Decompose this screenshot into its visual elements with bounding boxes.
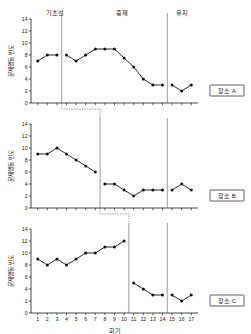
y-tick-label: 6: [25, 64, 28, 70]
data-point: [171, 84, 174, 87]
data-point: [113, 183, 116, 186]
x-tick-label: 7: [94, 316, 97, 322]
x-tick-label: 10: [121, 316, 127, 322]
legend-label-3: 장소 C: [218, 297, 237, 304]
legend-label-2: 장소 B: [218, 192, 236, 199]
x-tick-label: 11: [131, 316, 136, 322]
x-tick-label: 14: [160, 316, 166, 322]
data-point: [161, 84, 164, 87]
series-line-중재: [67, 49, 163, 85]
x-tick-label: 1: [36, 316, 39, 322]
x-tick-label: 6: [84, 316, 87, 322]
data-point: [113, 48, 116, 51]
data-point: [36, 153, 39, 156]
y-tick-label: 10: [22, 145, 28, 151]
data-point: [84, 165, 87, 168]
y-tick-label: 4: [25, 181, 28, 187]
x-axis-title: 회기: [109, 327, 121, 334]
phase-stagger-connector: [100, 208, 129, 223]
y-tick-label: 12: [22, 238, 28, 244]
y-tick-label: 8: [25, 52, 28, 58]
y-tick-label: 8: [25, 262, 28, 268]
data-point: [132, 195, 135, 198]
data-point: [123, 189, 126, 192]
y-tick-label: 4: [25, 76, 28, 82]
data-point: [180, 183, 183, 186]
y-tick-label: 2: [25, 193, 28, 199]
x-tick-label: 12: [140, 316, 146, 322]
panel-2: 02468101214문제행동 빈도장소 B: [7, 118, 244, 223]
data-point: [94, 48, 97, 51]
data-point: [142, 189, 145, 192]
chart-canvas: 기초선중재유지02468101214문제행동 빈도장소 A02468101214…: [0, 0, 251, 334]
data-point: [190, 294, 193, 297]
x-tick-label: 15: [169, 316, 175, 322]
data-point: [151, 84, 154, 87]
y-tick-label: 10: [22, 40, 28, 46]
data-point: [190, 189, 193, 192]
data-point: [55, 258, 58, 261]
data-point: [103, 183, 106, 186]
data-point: [84, 54, 87, 57]
phase-stagger-connector: [62, 103, 100, 118]
data-point: [75, 60, 78, 63]
data-point: [36, 258, 39, 261]
y-axis-title: 문제행동 빈도: [7, 254, 15, 287]
y-tick-label: 0: [25, 310, 28, 316]
data-point: [65, 153, 68, 156]
data-point: [123, 240, 126, 243]
x-tick-label: 4: [65, 316, 68, 322]
data-point: [171, 294, 174, 297]
data-point: [161, 294, 164, 297]
y-tick-label: 6: [25, 274, 28, 280]
x-tick-label: 8: [103, 316, 106, 322]
data-point: [190, 84, 193, 87]
x-tick-label: 13: [150, 316, 156, 322]
data-point: [46, 264, 49, 267]
data-point: [142, 288, 145, 291]
data-point: [46, 54, 49, 57]
y-tick-label: 12: [22, 28, 28, 34]
data-point: [161, 189, 164, 192]
x-tick-label: 16: [179, 316, 185, 322]
multiple-baseline-chart: 기초선중재유지02468101214문제행동 빈도장소 A02468101214…: [0, 0, 251, 334]
panel-3: 024681012141234567891011121314151617문제행동…: [7, 223, 244, 322]
y-tick-label: 8: [25, 157, 28, 163]
data-point: [46, 153, 49, 156]
data-point: [171, 189, 174, 192]
data-point: [65, 54, 68, 57]
data-point: [180, 90, 183, 93]
data-point: [84, 252, 87, 255]
x-tick-label: 17: [188, 316, 194, 322]
data-point: [65, 264, 68, 267]
data-point: [180, 300, 183, 303]
y-axis-title: 문제행동 빈도: [7, 149, 15, 182]
data-point: [36, 60, 39, 63]
y-tick-label: 14: [22, 16, 28, 22]
phase-header-2: 중재: [116, 9, 128, 17]
y-tick-label: 6: [25, 169, 28, 175]
y-tick-label: 12: [22, 133, 28, 139]
y-axis-title: 문제행동 빈도: [7, 44, 15, 77]
y-tick-label: 14: [22, 121, 28, 127]
data-point: [75, 159, 78, 162]
data-point: [94, 252, 97, 255]
data-point: [94, 171, 97, 174]
x-tick-label: 9: [113, 316, 116, 322]
y-tick-label: 0: [25, 205, 28, 211]
x-tick-label: 2: [46, 316, 49, 322]
phase-header-3: 유지: [176, 9, 188, 17]
data-point: [55, 54, 58, 57]
y-tick-label: 2: [25, 88, 28, 94]
series-line-중재: [134, 283, 163, 295]
data-point: [55, 147, 58, 150]
series-line-기초선: [38, 148, 96, 172]
series-line-기초선: [38, 241, 124, 265]
legend-label-1: 장소 A: [218, 87, 236, 94]
data-point: [75, 258, 78, 261]
y-tick-label: 0: [25, 100, 28, 106]
panel-1: 02468101214문제행동 빈도장소 A: [7, 13, 244, 118]
data-point: [113, 246, 116, 249]
data-point: [151, 294, 154, 297]
data-point: [103, 246, 106, 249]
